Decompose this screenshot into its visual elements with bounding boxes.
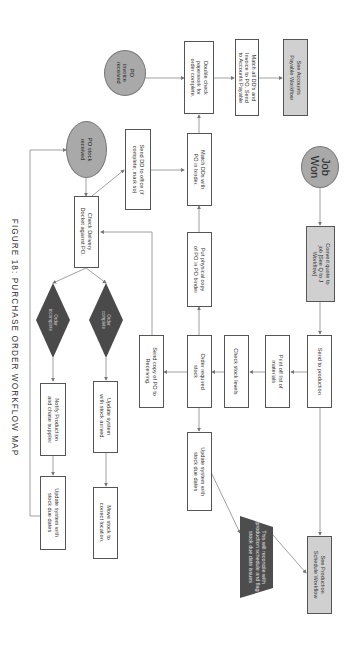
send-dd-office-box: Send DD to office (if complete, mark so) [125, 129, 151, 210]
update-stock-arrived-box: Update system with stock arrived. [93, 381, 118, 453]
convert-quote-box: Convert quote to job [See Q to J Workflo… [306, 226, 335, 302]
update-due-dates-box-2: Update system with stock due dates [40, 476, 66, 550]
double-check-box: Double check paperwork for order complet… [184, 41, 214, 114]
match-dds-box: Match DDs with PO in binder. [187, 133, 212, 206]
update-due-dates-box-1: Update system with stock due dates [187, 432, 212, 511]
reconcile-note: This will reconcile with production sche… [240, 516, 273, 598]
send-copy-po-box: Send copy of PO to Receiving. [139, 335, 164, 408]
order-complete-label: Order complete [89, 283, 123, 357]
see-production-workflow-box: See Production Schedule Workflow [307, 536, 332, 614]
po-stock-terminal: PO stock received [66, 121, 107, 178]
check-stock-box: Check stock levels [224, 335, 249, 408]
notify-production-box: Notify Production and chase supplier [40, 383, 66, 456]
check-delivery-box: Check Delivery Docket against PO. [74, 196, 99, 268]
po-invoice-terminal: PO invoice received [104, 50, 146, 96]
send-production-box: Send to production [307, 335, 332, 408]
print-materials-box: Print off list of materials [265, 335, 290, 408]
put-physical-copy-box: Put physical copy of PO in PO binder [187, 232, 212, 307]
move-stock-box: Move stock to correct location. [93, 487, 118, 559]
order-stock-box: Order required stock [187, 335, 212, 408]
match-invoice-box: Match all DD's and Invoice to PO. Send t… [235, 39, 259, 116]
see-accounts-workflow-box: See Accounts Payable Workflow [283, 39, 308, 116]
order-incomplete-label: Order incomplete [36, 283, 70, 357]
job-won-terminal: Job Won [301, 146, 339, 188]
figure-caption: FIGURE 18: PURCHASE ORDER WORKFLOW MAP [2, 172, 28, 502]
